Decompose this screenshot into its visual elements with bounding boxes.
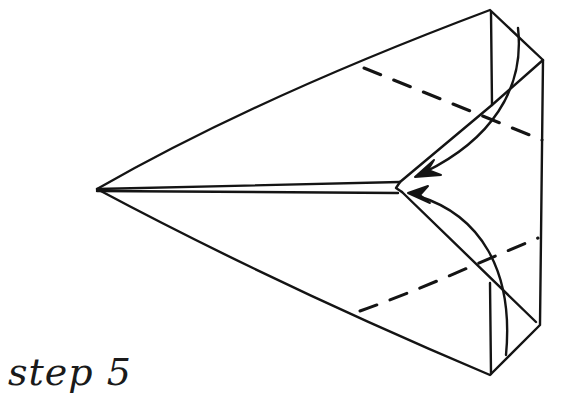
top-arrowhead-icon <box>415 160 441 177</box>
bottom-inner-diagonal <box>402 192 536 322</box>
center-crease-bottom <box>97 191 398 193</box>
top-inner-vertical <box>491 12 492 105</box>
center-notch <box>396 182 402 192</box>
bottom-fold-line <box>360 238 538 311</box>
top-inner-diagonal <box>400 60 543 182</box>
top-fold-line <box>364 68 542 140</box>
center-crease-top <box>97 182 400 189</box>
bottom-inner-vertical <box>490 283 491 374</box>
step-label: step 5 <box>8 350 132 394</box>
